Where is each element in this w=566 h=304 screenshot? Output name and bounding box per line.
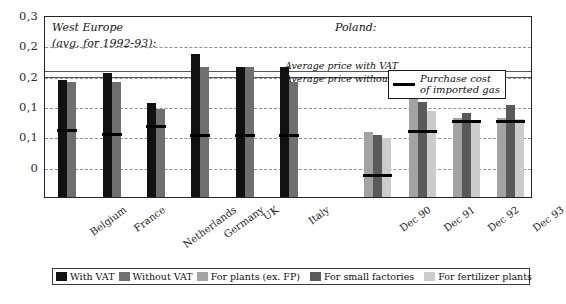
bar-fert [515, 119, 524, 197]
x-axis-label: Belgium [88, 204, 128, 238]
legend-label: For plants (ex. FP) [211, 271, 300, 282]
legend-item[interactable]: For plants (ex. FP) [197, 271, 300, 282]
bar-novat [245, 67, 254, 197]
bar-novat [289, 82, 298, 197]
bar-fert [382, 138, 391, 197]
legend-label: Without VAT [133, 271, 193, 282]
x-axis-label: Dec 90 [397, 204, 432, 234]
x-axis-label: Dec 92 [486, 204, 521, 234]
panel-heading-poland: Poland: [335, 21, 377, 34]
legend-item[interactable]: With VAT [56, 271, 115, 282]
y-axis-tick-label: 0,1 [4, 130, 38, 144]
purchase-cost-key-line1: Purchase cost [420, 73, 500, 84]
bar-group [400, 17, 444, 197]
bar-vat [191, 54, 200, 197]
legend-swatch [310, 272, 321, 281]
chart-legend: With VATWithout VATFor plants (ex. FP)Fo… [52, 268, 530, 285]
bar-vat [58, 80, 67, 197]
legend-item[interactable]: For small factories [310, 271, 414, 282]
purchase-cost-key-line2: of imported gas [420, 84, 500, 95]
panel-heading-line1: West Europe [52, 21, 156, 34]
y-axis-tick-label: 0,1 [4, 100, 38, 114]
x-axis-label: Dec 91 [442, 204, 477, 234]
bar-vat [147, 103, 156, 197]
x-axis-label: Dec 93 [531, 204, 566, 234]
x-axis-label: France [131, 204, 166, 234]
y-axis-tick-label: 0 [4, 161, 38, 175]
legend-label: For fertilizer plants [438, 271, 532, 282]
plot-area: West Europe(avg. for 1992-93):Poland:Ave… [44, 16, 532, 198]
bar-plants [453, 118, 462, 197]
bar-group [178, 17, 222, 197]
y-axis-tick-label: 0,2 [4, 39, 38, 53]
bar-small [373, 135, 382, 197]
bar-plants [409, 97, 418, 197]
bar-plants [364, 132, 373, 197]
purchase-cost-marker [190, 134, 210, 137]
bar-small [506, 105, 515, 197]
purchase-cost-marker [146, 125, 166, 128]
legend-item[interactable]: For fertilizer plants [424, 271, 532, 282]
legend-swatch [119, 272, 130, 281]
legend-swatch [197, 272, 208, 281]
bar-small [462, 113, 471, 197]
bar-fert [471, 121, 480, 197]
bar-plants [497, 118, 506, 197]
bar-vat [236, 67, 245, 197]
purchase-cost-swatch [393, 83, 415, 86]
purchase-cost-marker [363, 174, 392, 177]
bar-novat [200, 67, 209, 197]
legend-label: With VAT [70, 271, 115, 282]
purchase-cost-marker [279, 134, 299, 137]
legend-swatch [424, 272, 435, 281]
x-axis-label: UK [261, 204, 280, 222]
purchase-cost-marker [235, 134, 255, 137]
bar-group [222, 17, 266, 197]
purchase-cost-key-text: Purchase costof imported gas [420, 73, 500, 95]
bar-group [267, 17, 311, 197]
panel-heading-line2: (avg. for 1992-93): [52, 37, 156, 50]
purchase-cost-marker [496, 120, 525, 123]
purchase-cost-marker [57, 129, 77, 132]
purchase-cost-marker [102, 133, 122, 136]
bar-novat [156, 109, 165, 197]
bar-group [489, 17, 531, 197]
bar-small [418, 102, 427, 197]
bar-group [356, 17, 400, 197]
plot-inner: West Europe(avg. for 1992-93):Poland:Ave… [45, 17, 531, 197]
legend-label: For small factories [324, 271, 414, 282]
purchase-cost-marker [408, 130, 437, 133]
bar-novat [67, 82, 76, 197]
y-axis-tick-label: 0,2 [4, 70, 38, 84]
annotation-average-price-with-vat: Average price with VAT [285, 60, 398, 71]
legend-item[interactable]: Without VAT [119, 271, 193, 282]
purchase-cost-marker [452, 120, 481, 123]
bar-fert [427, 111, 436, 197]
bar-novat [112, 82, 121, 197]
x-axis-label: Italy [306, 204, 331, 226]
purchase-cost-key: Purchase costof imported gas [388, 70, 506, 99]
panel-heading-west-europe: West Europe(avg. for 1992-93): [52, 21, 156, 50]
legend-swatch [56, 272, 67, 281]
y-axis: 0,30,20,20,10,10 [0, 0, 38, 304]
y-axis-tick-label: 0,3 [4, 9, 38, 23]
bar-group [444, 17, 488, 197]
bar-vat [280, 67, 289, 197]
